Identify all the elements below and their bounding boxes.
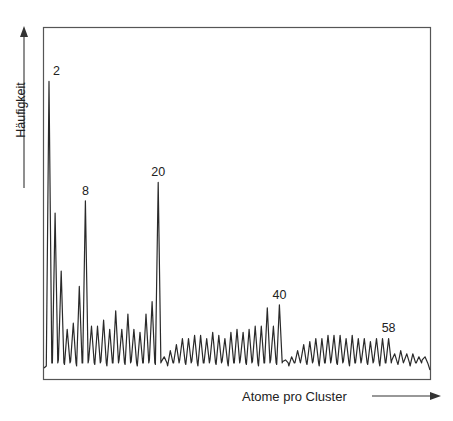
peak-label-20: 20	[151, 165, 165, 179]
x-axis-arrow-icon	[430, 392, 441, 400]
plot-frame	[44, 28, 431, 380]
x-axis-label: Atome pro Cluster	[242, 389, 347, 404]
data-trace	[44, 81, 430, 370]
y-axis-arrow-icon	[20, 26, 28, 37]
chart: 28204058	[0, 0, 453, 421]
peak-label-58: 58	[382, 321, 396, 335]
peak-label-2: 2	[53, 64, 60, 78]
peak-labels: 28204058	[53, 64, 396, 335]
y-axis-label: Häufigkeit	[10, 40, 32, 180]
peak-label-40: 40	[272, 288, 286, 302]
peak-label-8: 8	[82, 184, 89, 198]
y-axis-label-text: Häufigkeit	[14, 82, 28, 138]
